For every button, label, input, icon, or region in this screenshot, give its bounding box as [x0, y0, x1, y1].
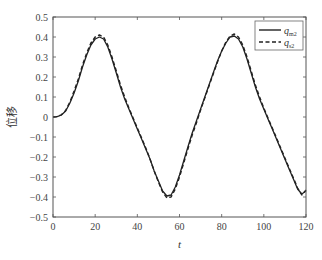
plot-area: [53, 34, 306, 198]
y-tick-label: 0: [43, 112, 48, 123]
y-tick-label: −0.4: [30, 192, 48, 203]
x-tick-label: 60: [175, 221, 185, 232]
y-axis-label: 位移: [5, 106, 18, 128]
y-tick-label: −0.5: [30, 212, 48, 223]
x-tick-label: 40: [132, 221, 142, 232]
y-tick-label: −0.3: [30, 172, 48, 183]
y-tick-label: 0.1: [36, 92, 49, 103]
x-tick-label: 80: [217, 221, 227, 232]
y-tick-label: −0.2: [30, 152, 48, 163]
y-tick-label: 0.5: [36, 12, 49, 23]
x-tick-label: 120: [299, 221, 314, 232]
y-tick-label: −0.1: [30, 132, 48, 143]
series-line-q-m2: [53, 36, 306, 196]
x-tick-label: 20: [90, 221, 100, 232]
displacement-line-chart: 020406080100120−0.5−0.4−0.3−0.2−0.100.10…: [0, 0, 322, 260]
y-tick-label: 0.4: [36, 32, 49, 43]
legend: qm2qs2: [255, 21, 303, 50]
y-tick-label: 0.3: [36, 52, 49, 63]
x-tick-label: 0: [51, 221, 56, 232]
x-axis-label: t: [178, 238, 182, 250]
y-tick-label: 0.2: [36, 72, 49, 83]
x-tick-label: 100: [256, 221, 271, 232]
